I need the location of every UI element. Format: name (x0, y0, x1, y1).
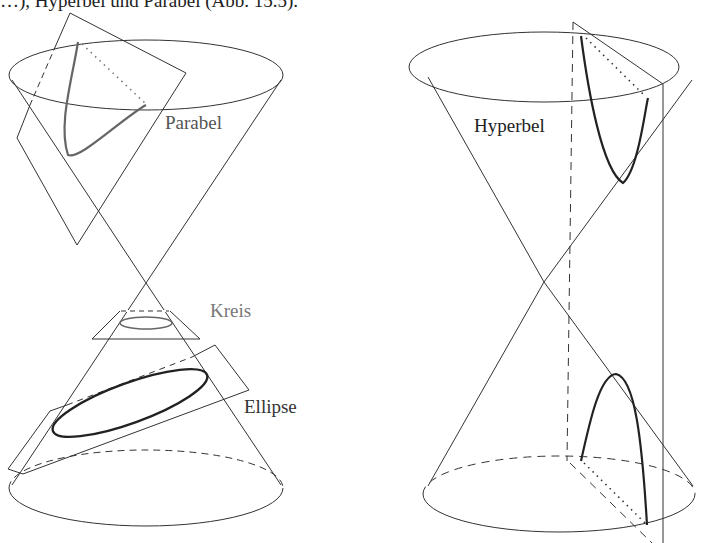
hyperbel-lower-branch (581, 374, 647, 525)
label-parabel: Parabel (165, 112, 222, 134)
ellipse-plane (8, 345, 249, 474)
label-kreis: Kreis (210, 300, 251, 322)
kreis-curve (120, 317, 172, 329)
right-double-cone (409, 32, 695, 532)
parabel-plane (17, 13, 186, 245)
label-ellipse: Ellipse (244, 396, 297, 418)
label-hyperbel: Hyperbel (474, 115, 545, 137)
conic-sections-figure (0, 0, 701, 543)
left-double-cone (9, 40, 283, 526)
hyperbel-upper-branch (581, 36, 648, 183)
kreis-plane (92, 311, 200, 339)
parabel-curve (65, 42, 147, 155)
